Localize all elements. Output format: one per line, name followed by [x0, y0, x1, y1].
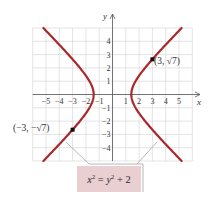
- x-tick-label: 1: [124, 97, 128, 106]
- equation-label-box: x2 = y2 + 2: [77, 166, 141, 192]
- x-axis-label: x: [196, 97, 201, 107]
- equation-text: x2 = y2 + 2: [87, 173, 130, 185]
- y-tick-label: −4: [102, 144, 111, 153]
- point-label-right: (3, √7): [154, 56, 180, 67]
- point-label-left: (−3, −√7): [13, 123, 50, 134]
- x-tick-label: 4: [164, 97, 168, 106]
- y-tick-label: 1: [107, 77, 111, 86]
- x-tick-label: −4: [55, 97, 64, 106]
- x-tick-label: 2: [137, 97, 141, 106]
- y-axis-label: y: [102, 11, 107, 21]
- x-tick-label: −5: [42, 97, 51, 106]
- point-marker: [71, 128, 75, 132]
- x-tick-label: 5: [177, 97, 181, 106]
- y-tick-label: −3: [102, 130, 111, 139]
- x-tick-label: −2: [82, 97, 91, 106]
- y-tick-label: 2: [107, 64, 111, 73]
- x-tick-label: −3: [68, 97, 77, 106]
- y-tick-label: 3: [107, 51, 111, 60]
- y-tick-label: −1: [102, 104, 111, 113]
- x-tick-label: 3: [150, 97, 154, 106]
- y-tick-label: 4: [107, 37, 111, 46]
- y-tick-label: −2: [102, 117, 111, 126]
